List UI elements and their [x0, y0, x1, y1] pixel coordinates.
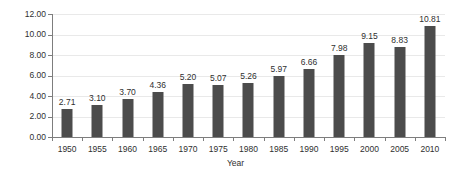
x-tick-mark — [324, 137, 325, 141]
bar-value-label: 7.98 — [331, 44, 348, 53]
bar-value-label: 6.66 — [301, 58, 318, 67]
bars-layer: 2.713.103.704.365.205.075.265.976.667.98… — [52, 14, 445, 137]
x-tick-mark — [112, 137, 113, 141]
y-tick-mark — [48, 76, 52, 77]
x-tick-label: 1950 — [58, 144, 77, 154]
plot-area: 2.713.103.704.365.205.075.265.976.667.98… — [52, 14, 445, 137]
y-tick-label: 0.00 — [0, 133, 46, 142]
bar — [62, 109, 73, 137]
bar-group: 10.81 — [415, 14, 445, 137]
y-tick-label: 12.00 — [0, 10, 46, 19]
x-tick-label: 1955 — [88, 144, 107, 154]
bar — [152, 92, 163, 137]
bar — [364, 43, 375, 137]
bar-value-label: 2.71 — [59, 98, 76, 107]
x-tick-label: 1995 — [330, 144, 349, 154]
y-tick-mark — [48, 14, 52, 15]
x-tick-mark — [415, 137, 416, 141]
y-tick-label: 4.00 — [0, 92, 46, 101]
bar — [334, 55, 345, 137]
x-tick-mark — [445, 137, 446, 141]
x-tick-label: 2000 — [360, 144, 379, 154]
bar-group: 9.15 — [354, 14, 384, 137]
bar-group: 3.10 — [82, 14, 112, 137]
bar-group: 8.83 — [385, 14, 415, 137]
bar-group: 2.71 — [52, 14, 82, 137]
bar-value-label: 3.10 — [89, 94, 106, 103]
x-tick-mark — [294, 137, 295, 141]
x-tick-label: 1960 — [118, 144, 137, 154]
x-tick-label: 1970 — [179, 144, 198, 154]
bar-group: 4.36 — [143, 14, 173, 137]
x-tick-label: 2005 — [390, 144, 409, 154]
bar-value-label: 5.20 — [180, 73, 197, 82]
bar-group: 7.98 — [324, 14, 354, 137]
x-tick-mark — [203, 137, 204, 141]
x-tick-mark — [82, 137, 83, 141]
x-tick-mark — [143, 137, 144, 141]
y-tick-mark — [48, 96, 52, 97]
bar-value-label: 4.36 — [150, 81, 167, 90]
y-tick-label: 10.00 — [0, 30, 46, 39]
x-tick-label: 1980 — [239, 144, 258, 154]
bar-group: 5.20 — [173, 14, 203, 137]
x-tick-mark — [354, 137, 355, 141]
bar-value-label: 3.70 — [119, 88, 136, 97]
x-tick-mark — [264, 137, 265, 141]
bar-value-label: 5.26 — [240, 72, 257, 81]
bar-group: 5.07 — [203, 14, 233, 137]
y-tick-mark — [48, 55, 52, 56]
x-tick-mark — [52, 137, 53, 141]
x-tick-label: 1985 — [269, 144, 288, 154]
bar — [122, 99, 133, 137]
x-axis-title-text: Year — [227, 158, 244, 168]
x-tick-mark — [233, 137, 234, 141]
x-axis-line — [52, 137, 445, 138]
bar-value-label: 8.83 — [391, 36, 408, 45]
y-tick-label: 8.00 — [0, 51, 46, 60]
bar-group: 5.26 — [233, 14, 263, 137]
bar-value-label: 9.15 — [361, 32, 378, 41]
bar — [92, 105, 103, 137]
x-tick-label: 2010 — [420, 144, 439, 154]
bar-chart: 0.002.004.006.008.0010.0012.00 2.713.103… — [0, 0, 463, 178]
x-tick-mark — [385, 137, 386, 141]
y-tick-mark — [48, 117, 52, 118]
bar-group: 3.70 — [112, 14, 142, 137]
x-tick-mark — [173, 137, 174, 141]
bar — [183, 84, 194, 137]
y-tick-label: 2.00 — [0, 112, 46, 121]
x-tick-label: 1975 — [209, 144, 228, 154]
y-axis-line — [52, 14, 53, 137]
x-tick-label: 1990 — [299, 144, 318, 154]
y-tick-label: 6.00 — [0, 71, 46, 80]
bar — [424, 26, 435, 137]
bar-group: 6.66 — [294, 14, 324, 137]
bar — [243, 83, 254, 137]
bar-group: 5.97 — [264, 14, 294, 137]
bar-value-label: 5.97 — [270, 65, 287, 74]
x-axis-title: Year — [0, 158, 463, 168]
bar — [273, 76, 284, 137]
y-tick-mark — [48, 35, 52, 36]
bar — [394, 47, 405, 138]
x-tick-label: 1965 — [148, 144, 167, 154]
bar — [213, 85, 224, 137]
bar-value-label: 10.81 — [419, 15, 440, 24]
bar-value-label: 5.07 — [210, 74, 227, 83]
bar — [303, 69, 314, 137]
